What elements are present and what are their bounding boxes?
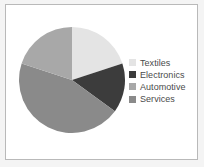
legend-swatch-automotive-icon bbox=[129, 83, 136, 90]
legend-label: Textiles bbox=[140, 58, 170, 68]
pie-slice-group bbox=[19, 27, 125, 133]
pie-chart bbox=[18, 26, 126, 134]
legend-swatch-services-icon bbox=[129, 96, 136, 103]
plot-area: TextilesElectronicsAutomotiveServices bbox=[0, 0, 204, 167]
legend-item-textiles[interactable]: Textiles bbox=[129, 57, 201, 69]
legend-label: Electronics bbox=[140, 70, 185, 80]
legend-swatch-textiles-icon bbox=[129, 59, 136, 66]
legend-swatch-electronics-icon bbox=[129, 71, 136, 78]
legend-item-services[interactable]: Services bbox=[129, 93, 201, 105]
legend-label: Services bbox=[140, 94, 175, 104]
legend-item-automotive[interactable]: Automotive bbox=[129, 81, 201, 93]
legend-item-electronics[interactable]: Electronics bbox=[129, 69, 201, 81]
chart-legend: TextilesElectronicsAutomotiveServices bbox=[129, 57, 201, 105]
legend-label: Automotive bbox=[140, 82, 186, 92]
chart-figure: TextilesElectronicsAutomotiveServices bbox=[0, 0, 204, 167]
